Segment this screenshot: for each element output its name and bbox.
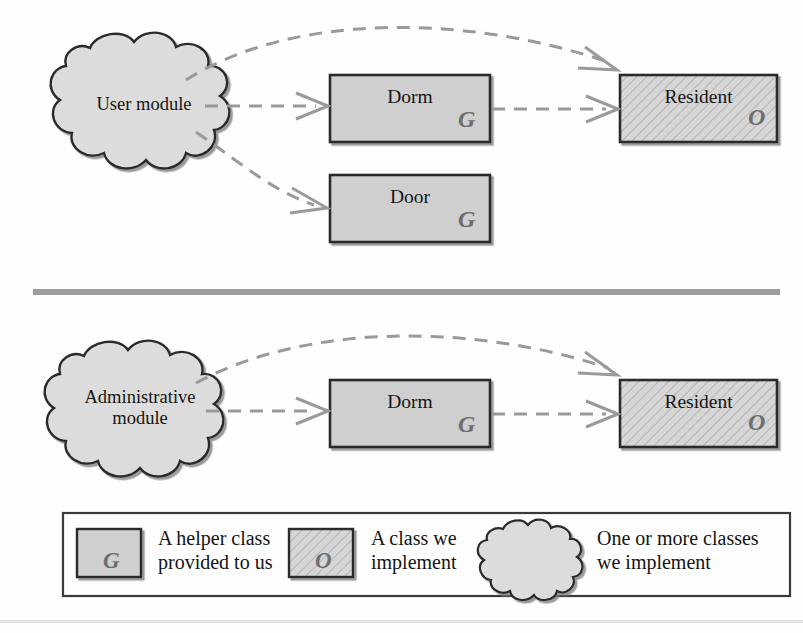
page-bottom-rule <box>0 620 803 623</box>
edge-dorm-to-resident <box>492 96 618 122</box>
class-marker-implemented-resident-admin: O <box>748 409 765 436</box>
class-marker-helper-door: G <box>458 206 475 233</box>
class-marker-helper-dorm: G <box>458 106 475 133</box>
legend-marker-helper-class: G <box>103 548 120 574</box>
edge-user-module-to-door <box>196 132 327 213</box>
figure-canvas: User module Dorm G Door G Resident O Adm… <box>0 0 803 633</box>
cloud-administrative-module <box>45 341 224 477</box>
cloud-user-module <box>51 33 230 169</box>
legend-swatch-implemented-module <box>478 520 583 600</box>
legend-box <box>63 513 790 596</box>
class-marker-implemented-resident: O <box>748 104 765 131</box>
edge-user-module-to-resident <box>186 27 617 80</box>
edge-admin-module-to-resident <box>196 336 617 383</box>
legend-marker-implemented-class: O <box>315 548 332 574</box>
diagram-vector-layer <box>0 0 803 633</box>
edge-dorm-to-resident-admin <box>492 401 618 427</box>
section-divider <box>33 289 780 295</box>
class-marker-helper-dorm-admin: G <box>458 411 475 438</box>
